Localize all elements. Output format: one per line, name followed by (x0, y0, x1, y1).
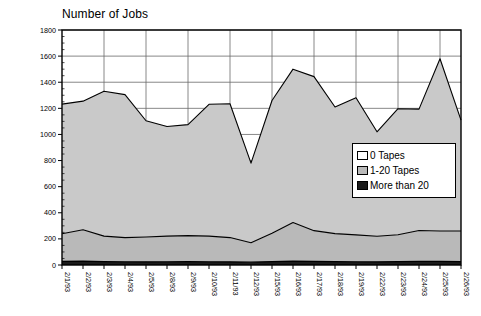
svg-text:2/10/93: 2/10/93 (210, 272, 219, 296)
legend-swatch-0-tapes (357, 151, 368, 160)
svg-text:2/17/93: 2/17/93 (315, 272, 324, 296)
svg-text:2/2/93: 2/2/93 (84, 272, 93, 292)
svg-text:1400: 1400 (40, 78, 56, 87)
x-axis-ticks: 2/1/932/2/932/3/932/4/932/5/932/8/932/9/… (62, 265, 471, 296)
chart-container: Number of Jobs 0200400600800100012001400… (0, 0, 481, 316)
svg-text:2/3/93: 2/3/93 (105, 272, 114, 292)
svg-text:1200: 1200 (40, 104, 56, 113)
svg-text:2/16/93: 2/16/93 (294, 272, 303, 296)
svg-text:400: 400 (44, 208, 56, 217)
svg-text:2/9/93: 2/9/93 (189, 272, 198, 292)
svg-text:2/25/93: 2/25/93 (441, 272, 450, 296)
svg-text:1600: 1600 (40, 52, 56, 61)
svg-text:2/8/93: 2/8/93 (168, 272, 177, 292)
legend-label-0-tapes: 0 Tapes (370, 150, 405, 161)
chart-legend: 0 Tapes 1-20 Tapes More than 20 (352, 143, 456, 198)
svg-text:0: 0 (52, 261, 56, 270)
svg-text:2/12/93: 2/12/93 (252, 272, 261, 296)
svg-text:2/15/93: 2/15/93 (273, 272, 282, 296)
legend-swatch-1-20-tapes (357, 166, 368, 175)
legend-swatch-more-than-20 (357, 181, 368, 190)
svg-text:2/4/93: 2/4/93 (126, 272, 135, 292)
svg-text:2/24/93: 2/24/93 (420, 272, 429, 296)
svg-text:2/26/93: 2/26/93 (462, 272, 471, 296)
legend-item-1-20-tapes: 1-20 Tapes (357, 163, 451, 178)
svg-text:600: 600 (44, 182, 56, 191)
svg-text:2/22/93: 2/22/93 (378, 272, 387, 296)
svg-text:2/11/93: 2/11/93 (231, 272, 240, 295)
svg-text:1000: 1000 (40, 130, 56, 139)
svg-text:2/19/93: 2/19/93 (357, 272, 366, 296)
y-axis-ticks: 020040060080010001200140016001800 (40, 26, 65, 270)
svg-text:1800: 1800 (40, 26, 56, 35)
legend-label-more-than-20: More than 20 (370, 180, 429, 191)
legend-item-more-than-20: More than 20 (357, 178, 451, 193)
legend-item-0-tapes: 0 Tapes (357, 148, 451, 163)
svg-text:800: 800 (44, 156, 56, 165)
legend-label-1-20-tapes: 1-20 Tapes (370, 165, 419, 176)
svg-text:2/1/93: 2/1/93 (63, 272, 72, 292)
svg-text:2/5/93: 2/5/93 (147, 272, 156, 292)
svg-text:2/18/93: 2/18/93 (336, 272, 345, 296)
svg-text:200: 200 (44, 234, 56, 243)
svg-text:2/23/93: 2/23/93 (399, 272, 408, 296)
